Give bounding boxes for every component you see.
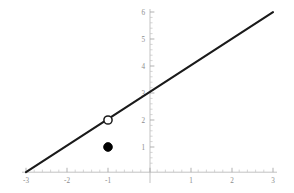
line-plot-svg: -3 -2 -1 1 2 3 1 2 3 4 5 6 [0,0,294,193]
y-tick-label-6: 6 [141,9,145,17]
plot-background [0,0,294,193]
y-tick-label-5: 5 [141,36,145,44]
y-tick-label-1: 1 [141,144,145,152]
y-tick-label-2: 2 [141,117,145,125]
y-tick-label-4: 4 [141,63,145,71]
filled-circle-point [104,143,113,152]
chart-figure: -3 -2 -1 1 2 3 1 2 3 4 5 6 [0,0,294,193]
x-tick-label--1: -1 [105,177,111,185]
x-tick-label--3: -3 [23,177,29,185]
x-tick-label--2: -2 [64,177,70,185]
x-tick-label-2: 2 [230,177,234,185]
x-tick-label-3: 3 [271,177,275,185]
x-tick-label-1: 1 [189,177,193,185]
open-circle-point [104,116,112,124]
